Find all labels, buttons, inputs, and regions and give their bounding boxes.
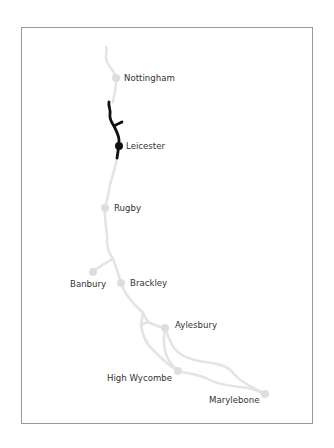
route-line-aylesbury-marylebone bbox=[165, 328, 265, 394]
station-banbury[interactable]: Banbury bbox=[70, 268, 106, 289]
route-line-rugby-brackley bbox=[105, 208, 121, 283]
station-dot bbox=[112, 74, 120, 82]
station-dot bbox=[161, 324, 169, 332]
station-high-wycombe[interactable]: High Wycombe bbox=[107, 367, 182, 383]
route-line-triangle bbox=[141, 313, 148, 325]
highlighted-route-branch bbox=[114, 122, 122, 126]
station-dot bbox=[101, 204, 109, 212]
station-nottingham[interactable]: Nottingham bbox=[112, 73, 175, 83]
station-label: Marylebone bbox=[209, 395, 259, 405]
station-label: Leicester bbox=[126, 141, 165, 151]
station-label: Aylesbury bbox=[175, 320, 217, 330]
station-dot bbox=[117, 279, 125, 287]
station-leicester[interactable]: Leicester bbox=[115, 141, 165, 151]
route-line-leicester-rugby bbox=[105, 158, 117, 208]
station-label: Banbury bbox=[70, 279, 106, 289]
station-aylesbury[interactable]: Aylesbury bbox=[161, 320, 217, 332]
route-map: Nottingham Leicester Rugby Banbury Brack… bbox=[0, 0, 334, 448]
route-line-high-wycombe-marylebone bbox=[178, 371, 265, 394]
station-dot bbox=[89, 268, 97, 276]
station-dot bbox=[115, 142, 123, 150]
station-dot bbox=[174, 367, 182, 375]
station-label: Brackley bbox=[130, 278, 167, 288]
station-label: High Wycombe bbox=[107, 373, 172, 383]
station-label: Nottingham bbox=[124, 73, 175, 83]
station-dot bbox=[261, 390, 269, 398]
station-brackley[interactable]: Brackley bbox=[117, 278, 167, 288]
station-label: Rugby bbox=[114, 203, 141, 213]
